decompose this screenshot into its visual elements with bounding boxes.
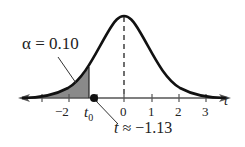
test-statistic-point <box>90 94 98 102</box>
x-axis-label: t <box>224 94 228 108</box>
tick-label-2: 2 <box>175 105 182 118</box>
test-statistic-value: ≈ −1.13 <box>118 119 172 136</box>
tick-label-0: 0 <box>120 105 127 118</box>
alpha-pointer-line <box>58 57 76 83</box>
tick-label-1: 1 <box>148 105 155 118</box>
t0-label: t0 <box>84 105 93 123</box>
shaded-rejection-region <box>30 67 89 98</box>
tick-label-3: 3 <box>202 105 209 118</box>
test-statistic-label: t ≈ −1.13 <box>114 120 172 136</box>
tick-label-neg2: −2 <box>55 105 69 118</box>
alpha-label: α = 0.10 <box>22 35 79 52</box>
t0-subscript: 0 <box>88 112 93 123</box>
